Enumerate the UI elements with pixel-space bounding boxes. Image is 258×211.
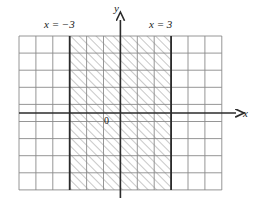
left-boundary-label: x = −3 [44,19,75,30]
right-boundary-label: x = 3 [149,19,172,30]
origin-label: 0 [104,116,109,126]
x-axis-label: x [243,108,248,119]
y-axis-label: y [114,3,119,14]
coordinate-plot-svg [0,0,258,211]
coordinate-grid-figure: x = −3 x = 3 y x 0 [0,0,258,211]
